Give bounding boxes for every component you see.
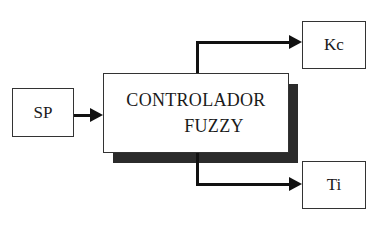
controller-to-ti-arrowhead <box>289 177 302 191</box>
controller-to-kc-horizontal <box>196 41 290 44</box>
kc-label: Kc <box>324 35 344 55</box>
ti-block: Ti <box>302 161 366 209</box>
controller-to-ti-vertical <box>196 153 199 185</box>
sp-label: SP <box>34 103 53 123</box>
controller-to-kc-vertical <box>196 41 199 73</box>
controller-label-line1: CONTROLADOR <box>126 87 265 113</box>
sp-to-controller-arrowhead <box>90 108 103 122</box>
controller-to-kc-arrowhead <box>289 35 302 49</box>
kc-block: Kc <box>302 21 366 69</box>
fuzzy-controller-block: CONTROLADOR FUZZY <box>103 73 289 153</box>
controller-label-line2: FUZZY <box>148 113 244 139</box>
ti-label: Ti <box>327 175 342 195</box>
sp-block: SP <box>12 88 74 137</box>
controller-to-ti-horizontal <box>196 183 290 186</box>
